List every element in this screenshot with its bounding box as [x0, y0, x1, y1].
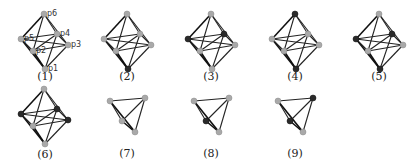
vertex-label-p4: p4 [60, 29, 70, 38]
diagram-canvas: p6p5p4p2p3p1(1)(2)(3)(4)(5)(6)(7)(8)(9) [0, 0, 418, 164]
vertex-a-light [107, 98, 113, 104]
vertex-p5-dark [18, 111, 24, 117]
edge-p5-p3 [104, 39, 151, 45]
vertex-label-p2: p2 [36, 46, 46, 55]
vertex-c-dark [203, 118, 209, 124]
panel-caption: (6) [37, 148, 53, 161]
edge-a-d [278, 101, 303, 132]
edge-p1-p4 [45, 109, 57, 144]
vertex-c-dark [287, 118, 293, 124]
vertex-p2-light [30, 123, 36, 129]
vertex-d-light [300, 129, 306, 135]
vertex-d-light [132, 129, 138, 135]
edge-p5-p3 [21, 114, 68, 120]
vertex-p6-dark [292, 11, 298, 17]
panel-caption: (5) [371, 70, 387, 83]
vertex-p6-light [208, 11, 214, 17]
vertex-label-p3: p3 [71, 40, 81, 49]
vertex-p2-light [197, 48, 203, 54]
panel-3: (3) [185, 11, 238, 83]
vertex-p4-dark [389, 31, 395, 37]
vertex-p4-dark [54, 106, 60, 112]
panel-1: p6p5p4p2p3p1(1) [18, 9, 81, 83]
vertex-p4-light [137, 31, 143, 37]
edge-p1-p4 [380, 34, 392, 69]
vertex-p2-light [281, 48, 287, 54]
vertex-d-light [216, 129, 222, 135]
edge-p5-p3 [272, 39, 319, 45]
panel-caption: (7) [119, 147, 135, 160]
edge-p1-p4 [296, 34, 308, 69]
vertex-p6-light [124, 11, 130, 17]
vertex-p3-dark [65, 117, 71, 123]
panel-caption: (8) [203, 147, 219, 160]
panel-caption: (2) [119, 70, 135, 83]
vertex-b-dark [310, 95, 316, 101]
edge-p5-p3 [356, 39, 403, 45]
vertex-p6-light [41, 86, 47, 92]
vertex-b-light [226, 95, 232, 101]
edge-p5-p3 [188, 39, 235, 45]
vertex-p3-light [400, 42, 406, 48]
panel-2: (2) [101, 11, 154, 83]
edge-p1-p4 [128, 34, 140, 69]
vertex-p6-light [376, 11, 382, 17]
vertex-p4-light [305, 31, 311, 37]
vertex-a-light [191, 98, 197, 104]
vertex-label-p5: p5 [24, 34, 34, 43]
panel-caption: (9) [287, 147, 303, 160]
vertex-b-light [142, 95, 148, 101]
edge-a-b [194, 98, 229, 101]
vertex-p5-dark [185, 36, 191, 42]
panel-7: (7) [107, 95, 148, 160]
vertex-p5-light [101, 36, 107, 42]
vertex-p2-light [113, 48, 119, 54]
vertex-p3-light [148, 42, 154, 48]
vertex-p3-light [316, 42, 322, 48]
vertex-p1-light [42, 141, 48, 147]
panel-5: (5) [353, 11, 406, 83]
panel-caption: (3) [203, 70, 219, 83]
vertex-p5-light [269, 36, 275, 42]
vertex-p2-light [365, 48, 371, 54]
polyhedra-figure: p6p5p4p2p3p1(1)(2)(3)(4)(5)(6)(7)(8)(9) [0, 0, 418, 164]
panel-6: (6) [18, 86, 71, 161]
edge-a-d [110, 101, 135, 132]
vertex-p3-light [232, 42, 238, 48]
panel-9: (9) [275, 95, 316, 160]
vertex-p5-dark [353, 36, 359, 42]
vertex-label-p6: p6 [47, 9, 57, 18]
edge-a-b [278, 98, 313, 101]
panel-caption: (1) [37, 70, 53, 83]
panel-4: (4) [269, 11, 322, 83]
panel-8: (8) [191, 95, 232, 160]
edge-a-b [110, 98, 145, 101]
panel-caption: (4) [287, 70, 303, 83]
edge-a-d [194, 101, 219, 132]
edge-p1-p4 [212, 34, 224, 69]
vertex-a-light [275, 98, 281, 104]
vertex-p4-dark [221, 31, 227, 37]
vertex-c-light [119, 118, 125, 124]
